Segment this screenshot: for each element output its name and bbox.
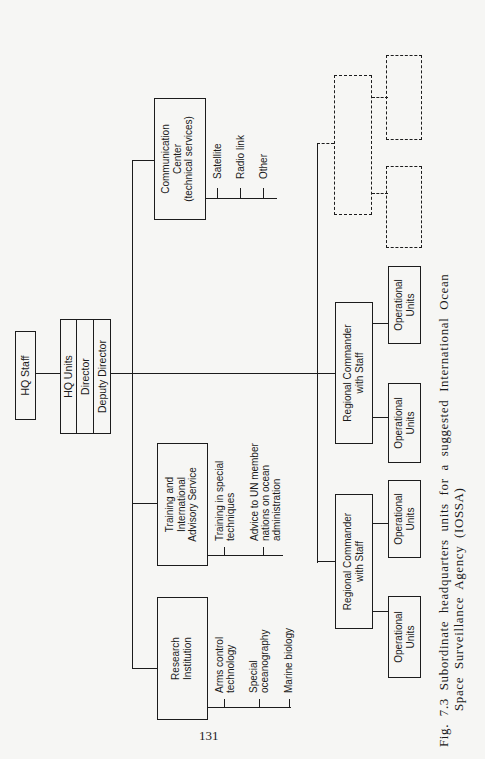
- title-line: Center: [172, 98, 184, 220]
- item-arms-control: Arms control technology: [214, 637, 236, 693]
- item-other: Other: [258, 154, 269, 179]
- connector: [35, 373, 60, 374]
- main-trunk: [110, 373, 318, 374]
- tick: [224, 699, 225, 707]
- unit-line: Units: [405, 480, 417, 558]
- title-line: International: [176, 443, 188, 566]
- unit-line: Units: [405, 596, 417, 678]
- director-label: Director: [78, 319, 93, 434]
- title-line: Regional Commander: [342, 494, 354, 629]
- connector: [317, 561, 335, 562]
- regional-commander-label: Regional Commander with Staff: [342, 494, 365, 629]
- title-line: with Staff: [354, 494, 366, 629]
- divider: [93, 319, 94, 434]
- item-line: Arms control: [214, 637, 225, 693]
- item-line: oceanography: [259, 630, 270, 693]
- item-line: Advice to UN member: [249, 443, 260, 541]
- connector: [372, 611, 388, 612]
- connector: [207, 555, 283, 556]
- placeholder-unit-box: [386, 55, 422, 140]
- unit-line: Operational: [393, 480, 405, 558]
- item-line: techniques: [225, 461, 236, 541]
- item-line: technology: [225, 637, 236, 693]
- unit-line: Operational: [393, 266, 405, 344]
- title-line: (technical services): [183, 98, 195, 220]
- title-line: Advisory Service: [187, 443, 199, 566]
- connector: [317, 373, 335, 374]
- dashed-connector: [317, 143, 334, 144]
- connector: [372, 417, 388, 418]
- tick: [263, 188, 264, 198]
- tick: [217, 188, 218, 198]
- unit-line: Units: [405, 383, 417, 463]
- tick: [289, 699, 290, 708]
- connector: [372, 523, 388, 524]
- title-line: with Staff: [354, 302, 366, 444]
- item-line: Marine biology: [283, 628, 294, 693]
- hq-units-label: HQ Units: [61, 319, 76, 434]
- title-line: Regional Commander: [342, 302, 354, 444]
- operational-units-label: Operational Units: [393, 596, 416, 678]
- divider: [76, 319, 77, 434]
- title-line: Training and: [164, 443, 176, 566]
- branch-spine: [132, 160, 133, 669]
- title-line: Communication: [160, 98, 172, 220]
- title-line: Institution: [182, 597, 194, 720]
- figure-caption: Fig. 7.3 Subordinate headquarters units …: [436, 274, 466, 747]
- connector: [207, 707, 291, 708]
- deputy-director-label: Deputy Director: [95, 319, 110, 434]
- unit-line: Units: [405, 266, 417, 344]
- operational-units-label: Operational Units: [393, 266, 416, 344]
- placeholder-unit-box: [386, 166, 422, 248]
- item-special-oceanography: Special oceanography: [248, 630, 270, 693]
- unit-line: Operational: [393, 383, 405, 463]
- hq-staff-label: HQ Staff: [18, 331, 33, 420]
- connector: [132, 160, 154, 161]
- tick: [240, 188, 241, 198]
- caption-line: Space Surveillance Agency (IOSSA): [451, 274, 466, 747]
- item-line: Training in special: [214, 461, 225, 541]
- placeholder-commander-box: [334, 75, 372, 215]
- training-label: Training and International Advisory Serv…: [164, 443, 199, 566]
- regional-commander-label: Regional Commander with Staff: [342, 302, 365, 444]
- tick: [224, 547, 225, 555]
- page-number: 131: [199, 728, 219, 744]
- item-marine-biology: Marine biology: [283, 628, 294, 693]
- item-line: administration: [271, 443, 282, 541]
- item-advice-un: Advice to UN member nations on ocean adm…: [249, 443, 282, 541]
- operational-units-label: Operational Units: [393, 383, 416, 463]
- item-training-special: Training in special techniques: [214, 461, 236, 541]
- research-label: Research Institution: [170, 597, 193, 720]
- connector: [372, 323, 388, 324]
- connector: [132, 503, 157, 504]
- communication-center-label: Communication Center (technical services…: [160, 98, 195, 220]
- item-satellite: Satellite: [212, 143, 223, 179]
- regional-spine: [317, 143, 318, 563]
- connector: [205, 198, 277, 199]
- title-line: Research: [170, 597, 182, 720]
- page: HQ Staff HQ Units Director Deputy Direct…: [0, 0, 485, 759]
- item-line: Special: [248, 630, 259, 693]
- connector: [132, 668, 157, 669]
- caption-line: Fig. 7.3 Subordinate headquarters units …: [436, 274, 451, 747]
- operational-units-label: Operational Units: [393, 480, 416, 558]
- item-radio-link: Radio link: [235, 135, 246, 179]
- tick: [263, 547, 264, 555]
- unit-line: Operational: [393, 596, 405, 678]
- tick: [259, 699, 260, 707]
- item-line: nations on ocean: [260, 443, 271, 541]
